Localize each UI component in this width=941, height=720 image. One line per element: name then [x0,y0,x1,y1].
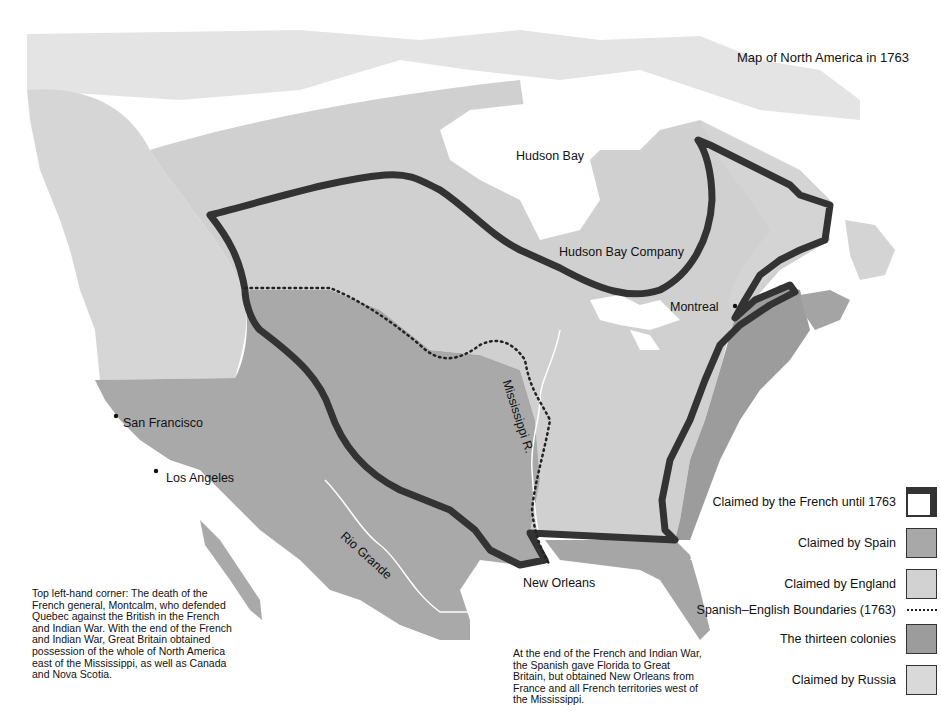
legend-label: The thirteen colonies [780,632,896,646]
spain-swatch-icon [906,528,937,558]
legend-item-french: Claimed by the French until 1763 [713,487,937,517]
label-hudson-bay-company: Hudson Bay Company [559,245,684,259]
russia-swatch-icon [906,665,937,695]
legend-item-boundary: Spanish–English Boundaries (1763) [697,595,937,625]
caption-bottom: At the end of the French and Indian War,… [513,648,703,706]
colonies-swatch-icon [906,624,937,654]
map-title: Map of North America in 1763 [737,50,909,65]
legend-item-spain: Claimed by Spain [798,528,937,558]
legend-label: Claimed by the French until 1763 [713,495,896,509]
label-new-orleans: New Orleans [523,576,595,590]
french-swatch-icon [906,487,937,517]
dotted-line-icon [906,595,937,625]
montreal-dot [733,304,737,308]
label-san-francisco: San Francisco [123,416,203,430]
los-angeles-dot [154,469,158,473]
legend-label: Spanish–English Boundaries (1763) [697,603,896,617]
legend-item-russia: Claimed by Russia [792,665,937,695]
label-hudson-bay: Hudson Bay [516,149,584,163]
legend-item-colonies: The thirteen colonies [780,624,937,654]
newfoundland [845,220,895,280]
label-montreal: Montreal [670,300,719,314]
legend-label: Claimed by England [784,577,896,591]
caption-left: Top left-hand corner: The death of the F… [32,588,232,681]
san-francisco-dot [114,414,118,418]
label-los-angeles: Los Angeles [166,471,234,485]
legend-label: Claimed by Russia [792,673,896,687]
legend-label: Claimed by Spain [798,536,896,550]
